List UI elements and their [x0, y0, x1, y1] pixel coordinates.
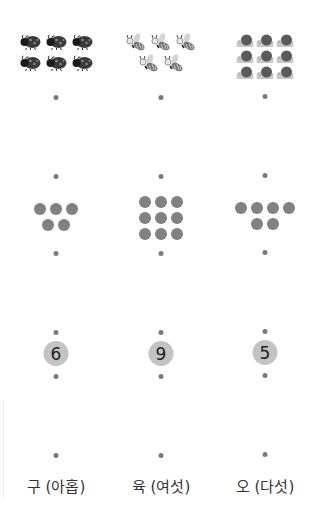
connect-dot-label-top[interactable] — [54, 453, 59, 458]
dot — [139, 228, 151, 240]
column-2: 9 육 (여섯) — [111, 0, 211, 508]
korean-number-label: 육 (여섯) — [132, 475, 190, 496]
dot — [235, 202, 247, 214]
connect-dot-number-top[interactable] — [54, 330, 59, 335]
ladybug-icon — [45, 33, 68, 50]
ladybug-icon — [45, 54, 68, 71]
snail-picture — [237, 33, 294, 79]
connect-dot-label-top[interactable] — [263, 452, 268, 457]
connect-dot-picture-bottom[interactable] — [54, 95, 59, 100]
column-3: 5 오 (다섯) — [215, 0, 315, 508]
connect-dot-number-bottom[interactable] — [159, 374, 164, 379]
snail-icon — [277, 33, 294, 47]
dot — [155, 196, 167, 208]
snail-icon — [257, 49, 274, 63]
ladybug-icon — [19, 54, 42, 71]
number-circle: 6 — [44, 341, 69, 366]
connect-dot-dots-bottom[interactable] — [54, 251, 59, 256]
connect-dot-dots-bottom[interactable] — [263, 250, 268, 255]
ladybug-icon — [71, 54, 94, 71]
connect-dot-dots-top[interactable] — [54, 174, 59, 179]
snail-icon — [237, 65, 254, 79]
snail-icon — [237, 49, 254, 63]
dot — [139, 196, 151, 208]
bee-picture — [125, 33, 197, 73]
ladybug-icon — [19, 33, 42, 50]
dot — [251, 218, 263, 230]
snail-icon — [277, 49, 294, 63]
ladybug-icon — [71, 33, 94, 50]
connect-dot-picture-bottom[interactable] — [159, 95, 164, 100]
dot-group-5 — [34, 203, 78, 231]
dot — [267, 202, 279, 214]
ladybug-picture — [19, 33, 94, 71]
korean-number-label: 오 (다섯) — [236, 475, 294, 496]
number-circle: 5 — [253, 340, 278, 365]
dot — [171, 196, 183, 208]
dot — [251, 202, 263, 214]
bee-icon — [125, 33, 147, 52]
dot — [267, 218, 279, 230]
snail-icon — [257, 33, 274, 47]
connect-dot-number-bottom[interactable] — [263, 373, 268, 378]
dot — [34, 203, 46, 215]
connect-dot-dots-top[interactable] — [263, 173, 268, 178]
column-1: 6 구 (아홉) — [6, 0, 106, 508]
snail-icon — [257, 65, 274, 79]
connect-dot-label-top[interactable] — [159, 453, 164, 458]
korean-number-label: 구 (아홉) — [27, 475, 85, 496]
connect-dot-number-top[interactable] — [263, 329, 268, 334]
dot — [155, 212, 167, 224]
dot — [283, 202, 295, 214]
connect-dot-dots-bottom[interactable] — [159, 251, 164, 256]
snail-icon — [277, 65, 294, 79]
dot-group-6 — [235, 202, 295, 230]
snail-icon — [237, 33, 254, 47]
dot — [66, 203, 78, 215]
bee-icon — [163, 54, 185, 73]
dot — [155, 228, 167, 240]
dot — [139, 212, 151, 224]
dot — [171, 212, 183, 224]
dot — [42, 219, 54, 231]
connect-dot-dots-top[interactable] — [159, 174, 164, 179]
dot — [58, 219, 70, 231]
dot-group-9 — [139, 196, 183, 240]
connect-dot-picture-bottom[interactable] — [263, 94, 268, 99]
dot — [50, 203, 62, 215]
dot — [171, 228, 183, 240]
bee-icon — [138, 54, 160, 73]
left-edge-line — [3, 400, 4, 500]
number-circle: 9 — [149, 341, 174, 366]
connect-dot-number-bottom[interactable] — [54, 374, 59, 379]
bee-icon — [175, 33, 197, 52]
connect-dot-number-top[interactable] — [159, 330, 164, 335]
bee-icon — [150, 33, 172, 52]
